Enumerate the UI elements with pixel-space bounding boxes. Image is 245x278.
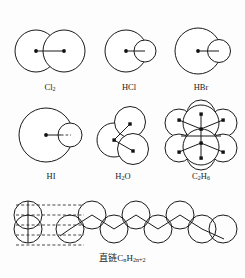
label-hcl-main: HCl [122,82,136,92]
molecule-straight-chain [8,196,238,252]
label-chain-prefix: 直链C [99,253,123,263]
label-h2o: H2O [92,172,154,181]
molecule-hcl [100,24,158,78]
label-hi: HI [18,172,84,181]
molecule-cl2 [14,22,86,80]
label-hi-main: HI [47,171,56,181]
label-chain-sub2: 2n+2 [133,256,146,263]
label-hbr: HBr [170,83,232,92]
molecule-h2o [92,104,154,166]
label-c2h6: C2H6 [163,172,239,181]
molecule-hi [18,104,84,166]
label-cl2-sub: 2 [53,86,56,92]
molecule-hbr [172,22,232,80]
label-cl2-main: Cl [44,82,52,92]
molecule-c2h6 [163,101,239,169]
label-h2o-tail: O [125,171,131,181]
label-straight-chain: 直链CnH2n+2 [0,254,245,264]
figure-sheet: Cl2 HCl HBr HI [0,0,245,278]
label-c2h6-sub2: 6 [207,175,210,181]
label-hcl: HCl [100,83,158,92]
label-cl2: Cl2 [14,83,86,92]
label-hbr-main: HBr [194,82,209,92]
